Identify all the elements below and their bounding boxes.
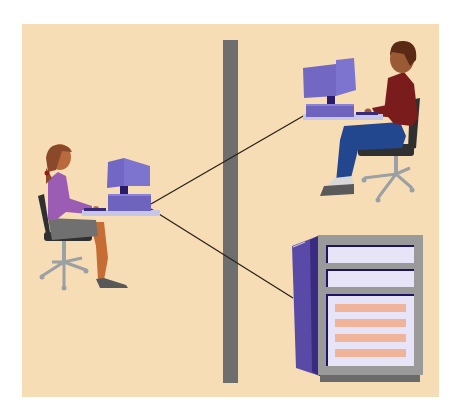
server-icon — [292, 235, 423, 382]
network-diagram: Network illustration: a woman at a works… — [0, 0, 457, 412]
monitor-icon — [107, 158, 151, 211]
wall-divider — [223, 40, 238, 383]
